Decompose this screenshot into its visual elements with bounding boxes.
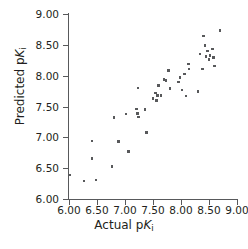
y-tick-label: 8.50 [36, 40, 59, 51]
y-axis-title-symbol: K [13, 50, 27, 58]
y-tick-mark [63, 14, 68, 15]
data-point [137, 87, 140, 90]
y-tick-mark [63, 199, 68, 200]
y-tick-label: 7.50 [36, 102, 59, 113]
x-axis-title: Actual pKi [0, 219, 248, 235]
scatter-plot-figure: 6.006.507.007.508.008.509.00 6.006.507.0… [0, 0, 248, 249]
data-point [206, 50, 209, 53]
data-point [219, 29, 222, 32]
data-point [111, 165, 114, 168]
data-point [183, 73, 186, 76]
data-point [197, 90, 200, 93]
data-point [157, 84, 160, 87]
data-point [155, 99, 158, 102]
data-point [145, 131, 148, 134]
y-axis-title-prefix: Predicted p [13, 57, 27, 125]
y-tick-label: 6.50 [36, 163, 59, 174]
y-tick-label: 7.00 [36, 132, 59, 143]
data-point [202, 35, 205, 38]
data-point [117, 140, 120, 143]
data-point [213, 65, 216, 68]
data-point [169, 87, 172, 90]
y-axis-title: Predicted pKi [14, 16, 30, 156]
data-point [181, 89, 184, 92]
y-tick-mark [63, 107, 68, 108]
x-axis-title-subscript: i [151, 223, 153, 233]
y-tick-label: 6.00 [36, 194, 59, 205]
data-point [125, 113, 128, 116]
data-point [208, 58, 211, 61]
data-point [204, 44, 207, 47]
data-point [160, 94, 163, 97]
data-point [188, 68, 191, 71]
data-point [177, 81, 180, 84]
data-point [211, 48, 214, 51]
data-point [83, 180, 86, 183]
data-point [209, 54, 212, 57]
y-tick-mark [63, 76, 68, 77]
y-tick-mark [63, 45, 68, 46]
data-point [212, 56, 215, 59]
y-tick-mark [63, 168, 68, 169]
data-point [165, 79, 168, 82]
data-point [201, 68, 204, 71]
x-axis-title-prefix: Actual p [94, 218, 143, 232]
data-point [95, 179, 98, 182]
data-point [167, 69, 170, 72]
data-point [69, 174, 72, 177]
data-point [152, 97, 155, 100]
y-tick-label: 8.00 [36, 71, 59, 82]
data-point [113, 116, 116, 119]
data-point [91, 140, 94, 143]
plot-data-area [69, 14, 237, 199]
data-point [91, 157, 94, 160]
data-point [137, 116, 140, 119]
data-point [187, 63, 190, 66]
data-point [144, 108, 147, 111]
data-point [127, 150, 130, 153]
data-point [135, 108, 138, 111]
y-tick-label: 9.00 [36, 9, 59, 20]
data-point [136, 112, 139, 115]
y-tick-mark [63, 137, 68, 138]
data-point [199, 53, 202, 56]
data-point [179, 76, 182, 79]
x-tick-label: 9.00 [221, 205, 248, 216]
data-point [156, 94, 159, 97]
y-axis-title-subscript: i [18, 47, 28, 49]
data-point [185, 95, 188, 98]
